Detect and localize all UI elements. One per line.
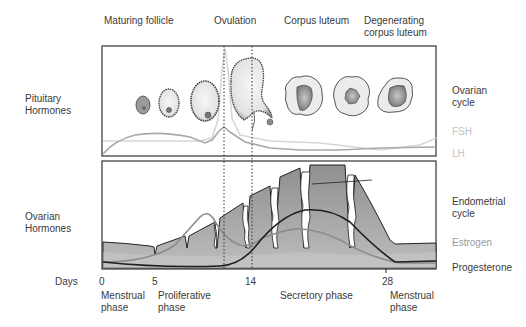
follicle-2	[159, 89, 179, 117]
endometrial-cycle-panel	[102, 161, 436, 273]
menstrual-cycle-diagram	[0, 0, 526, 327]
follicle-1	[136, 96, 150, 114]
ovum	[267, 119, 273, 125]
ovarian-cycle-panel	[102, 46, 436, 156]
